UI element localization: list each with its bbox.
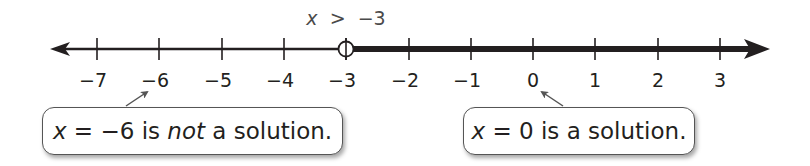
tick-label: 1 — [589, 69, 601, 91]
callout-right-variable: x — [472, 118, 486, 144]
pointer-arrow-to-neg6 — [126, 92, 147, 106]
inequality-label: x > −3 — [305, 7, 385, 29]
inequality-operator: > — [330, 7, 346, 29]
tick-label: −7 — [79, 69, 107, 91]
tick-label: 2 — [652, 69, 664, 91]
callout-left-text-1: = −6 is — [67, 118, 168, 144]
tick-label: −1 — [453, 69, 481, 91]
inequality-value: −3 — [358, 7, 386, 29]
tick-label: 3 — [714, 69, 726, 91]
pointer-arrow-to-0 — [542, 92, 563, 106]
callout-is-solution: x = 0 is a solution. — [463, 107, 695, 155]
callout-right-text: = 0 is a solution. — [485, 118, 686, 144]
tick-label: −2 — [391, 69, 419, 91]
callout-left-text-2: a solution. — [205, 118, 332, 144]
tick-label: −4 — [266, 69, 294, 91]
callout-not-solution: x = −6 is not a solution. — [42, 107, 343, 155]
tick-label: 0 — [527, 69, 539, 91]
tick-label: −6 — [141, 69, 169, 91]
tick-label: −3 — [328, 69, 356, 91]
tick-label: −5 — [204, 69, 232, 91]
callout-left-variable: x — [53, 118, 67, 144]
inequality-variable: x — [305, 7, 318, 29]
tick-labels: −7 −6 −5 −4 −3 −2 −1 0 1 2 3 — [79, 69, 726, 91]
callout-left-emphasis: not — [167, 118, 205, 144]
